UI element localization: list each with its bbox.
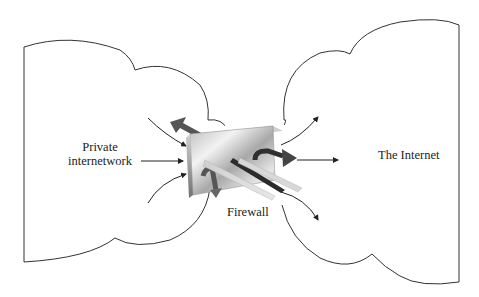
private-network-label: Private internetwork bbox=[60, 140, 140, 168]
firewall-label: Firewall bbox=[227, 205, 269, 219]
internet-label: The Internet bbox=[378, 148, 439, 162]
outbound-arrow-bottom bbox=[281, 192, 318, 220]
inbound-arrow-bottom bbox=[148, 174, 186, 203]
private-network-label-line2: internetwork bbox=[60, 154, 140, 168]
private-network-label-line1: Private bbox=[60, 140, 140, 154]
outbound-arrow-top bbox=[281, 117, 318, 145]
